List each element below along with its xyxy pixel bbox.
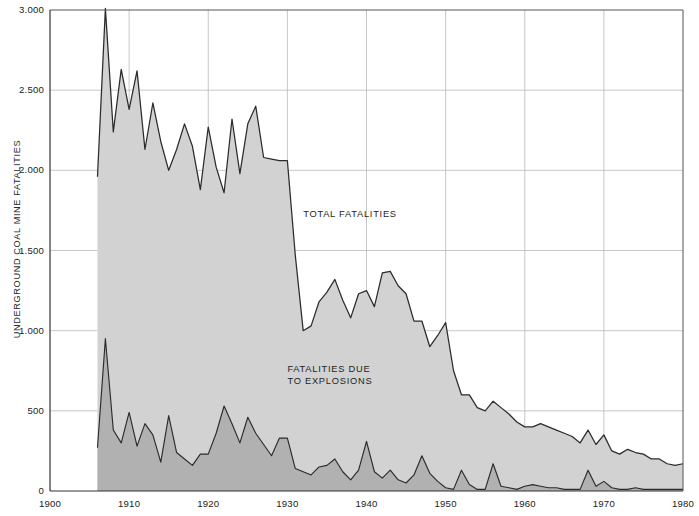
x-tick-label-1950: 1950 [416, 498, 476, 509]
x-tick-label-1970: 1970 [574, 498, 634, 509]
y-axis-title: UNDERGROUND COAL MINE FATALITIES [12, 74, 22, 404]
y-tick-label-2500: 2.500 [0, 84, 44, 95]
x-tick-label-1940: 1940 [337, 498, 397, 509]
annotation-fatalities-due-to-explosions: FATALITIES DUE TO EXPLOSIONS [287, 364, 372, 387]
y-tick-label-0: 0 [0, 485, 44, 496]
y-tick-label-3000: 3.000 [0, 4, 44, 15]
x-tick-label-1960: 1960 [495, 498, 555, 509]
x-tick-label-1900: 1900 [20, 498, 80, 509]
y-tick-label-1500: 1.500 [0, 245, 44, 256]
y-tick-label-2000: 2.000 [0, 164, 44, 175]
y-tick-label-500: 500 [0, 405, 44, 416]
x-tick-label-1910: 1910 [99, 498, 159, 509]
annotation-total-fatalities: TOTAL FATALITIES [303, 209, 397, 221]
y-tick-label-1000: 1.000 [0, 325, 44, 336]
x-tick-label-1980: 1980 [653, 498, 699, 509]
x-tick-label-1930: 1930 [257, 498, 317, 509]
x-tick-label-1920: 1920 [178, 498, 238, 509]
